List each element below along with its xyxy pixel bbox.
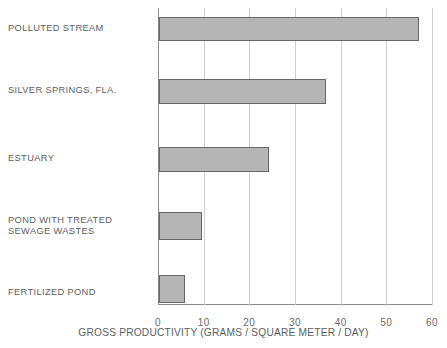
- plot-area: 0 10 20 30 40 50 60: [158, 8, 432, 305]
- bar-chart: POLLUTED STREAM SILVER SPRINGS, FLA. EST…: [0, 0, 447, 348]
- x-axis-title: GROSS PRODUCTIVITY (GRAMS / SQUARE METER…: [0, 327, 447, 338]
- bar-fertilized-pond[interactable]: [159, 275, 185, 303]
- gridline-40: [341, 8, 342, 305]
- category-label-polluted-stream: POLLUTED STREAM: [8, 23, 148, 34]
- gridline-60: [432, 8, 433, 305]
- gridline-30: [295, 8, 296, 305]
- bar-pond-with-treated-sewage-wastes[interactable]: [159, 212, 202, 240]
- bar-estuary[interactable]: [159, 147, 269, 172]
- category-label-silver-springs: SILVER SPRINGS, FLA.: [8, 85, 148, 96]
- bar-silver-springs[interactable]: [159, 79, 326, 104]
- bar-polluted-stream[interactable]: [159, 17, 419, 41]
- category-label-fertilized-pond: FERTILIZED POND: [8, 287, 148, 298]
- gridline-50: [386, 8, 387, 305]
- category-label-estuary: ESTUARY: [8, 153, 148, 164]
- category-label-pond-with-treated-sewage-wastes: POND WITH TREATED SEWAGE WASTES: [8, 215, 148, 237]
